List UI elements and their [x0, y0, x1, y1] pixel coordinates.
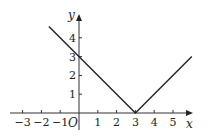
axes	[10, 14, 193, 130]
x-tick-label: 2	[113, 116, 120, 129]
y-axis-label: y	[67, 8, 75, 22]
x-tick-label: 5	[170, 116, 177, 129]
y-tick-label: 2	[69, 69, 76, 82]
x-tick-label: −3	[14, 116, 30, 129]
x-axis-label: x	[186, 117, 193, 131]
x-tick-label: −2	[33, 116, 49, 129]
x-tick-label: 3	[132, 116, 139, 129]
y-tick-label: 1	[69, 88, 76, 101]
x-tick-label: −1	[52, 116, 68, 129]
origin-label: O	[68, 116, 78, 130]
x-tick-label: 4	[151, 116, 158, 129]
y-axis-arrow-icon	[76, 14, 82, 21]
ticks: −3−2−1123451234	[14, 32, 176, 129]
x-tick-label: 1	[94, 116, 101, 129]
function-graph: −3−2−1123451234 x y O	[0, 0, 213, 137]
x-axis-arrow-icon	[186, 110, 193, 116]
y-tick-label: 4	[69, 32, 76, 45]
